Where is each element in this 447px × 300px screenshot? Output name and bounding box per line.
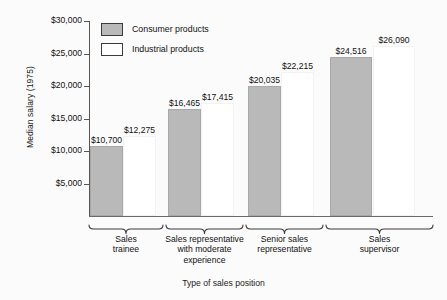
bar-consumer xyxy=(248,86,281,216)
bar-value-label-industrial: $26,090 xyxy=(371,35,417,45)
bar-industrial xyxy=(281,72,314,216)
bar-value-label-industrial: $22,215 xyxy=(275,61,321,71)
x-axis-title: Type of sales position xyxy=(0,278,447,288)
category-brace xyxy=(166,225,243,234)
category-label-line: Senior sales xyxy=(233,234,337,244)
bar-industrial xyxy=(123,136,156,216)
category-label-line: Sales xyxy=(328,234,432,244)
category-label-line: supervisor xyxy=(328,244,432,254)
category-label-line: representative xyxy=(233,244,337,254)
bar-industrial xyxy=(201,103,234,216)
bar-value-label-consumer: $24,516 xyxy=(328,46,374,56)
bars-layer: $10,700$12,275$16,465$17,415$20,035$22,2… xyxy=(0,0,447,216)
x-axis-baseline xyxy=(89,216,433,217)
category-label: Salessupervisor xyxy=(328,234,432,255)
category-brace xyxy=(326,225,433,234)
bar-consumer xyxy=(168,109,201,216)
bar-value-label-industrial: $17,415 xyxy=(195,92,241,102)
bar-consumer xyxy=(90,146,123,216)
bar-consumer xyxy=(330,57,372,216)
bar-value-label-consumer: $10,700 xyxy=(84,135,130,145)
category-brace xyxy=(89,225,163,234)
category-label-line: experience xyxy=(153,255,257,265)
bar-value-label-consumer: $20,035 xyxy=(242,75,288,85)
bar-industrial xyxy=(373,46,415,216)
bar-value-label-industrial: $12,275 xyxy=(117,125,163,135)
category-label: Senior salesrepresentative xyxy=(233,234,337,255)
category-brace xyxy=(246,225,323,234)
bar-chart: Median salary (1975) $5,000$10,000$15,00… xyxy=(0,0,447,300)
